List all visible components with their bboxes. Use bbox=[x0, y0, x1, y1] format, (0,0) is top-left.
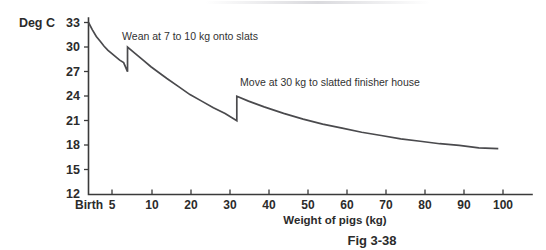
x-tick-label-20: 20 bbox=[184, 198, 198, 212]
x-axis-tick-labels: Birth 5 10 20 30 40 50 60 70 80 90 100 bbox=[75, 198, 513, 212]
y-tick-label-27: 27 bbox=[66, 65, 80, 79]
x-tick-label-40: 40 bbox=[262, 198, 276, 212]
y-tick-label-24: 24 bbox=[66, 89, 80, 103]
x-tick-label-100: 100 bbox=[493, 198, 513, 212]
x-tick-label-10: 10 bbox=[145, 198, 159, 212]
x-tick-label-5: 5 bbox=[109, 198, 116, 212]
pig-temperature-chart: Deg C 33 30 27 24 21 18 15 12 bbox=[0, 0, 546, 250]
figure-caption: Fig 3-38 bbox=[347, 233, 396, 248]
x-tick-label-60: 60 bbox=[340, 198, 354, 212]
annotation-move: Move at 30 kg to slatted finisher house bbox=[240, 76, 420, 88]
y-tick-label-21: 21 bbox=[66, 114, 80, 128]
x-tick-label-80: 80 bbox=[418, 198, 432, 212]
y-tick-label-30: 30 bbox=[66, 40, 80, 54]
chart-axes bbox=[89, 18, 533, 195]
y-tick-label-15: 15 bbox=[66, 163, 80, 177]
x-tick-label-90: 90 bbox=[457, 198, 471, 212]
annotation-wean: Wean at 7 to 10 kg onto slats bbox=[122, 30, 258, 42]
x-tick-label-birth: Birth bbox=[75, 198, 103, 212]
x-tick-label-70: 70 bbox=[379, 198, 393, 212]
y-axis-unit-label: Deg C bbox=[19, 16, 55, 30]
x-tick-label-30: 30 bbox=[223, 198, 237, 212]
y-axis-tick-labels: 33 30 27 24 21 18 15 12 bbox=[66, 16, 80, 201]
figure-container: Deg C 33 30 27 24 21 18 15 12 bbox=[0, 0, 546, 250]
y-tick-label-33: 33 bbox=[66, 16, 80, 30]
x-axis-title: Weight of pigs (kg) bbox=[283, 214, 386, 226]
x-tick-label-50: 50 bbox=[301, 198, 315, 212]
y-tick-label-18: 18 bbox=[66, 138, 80, 152]
